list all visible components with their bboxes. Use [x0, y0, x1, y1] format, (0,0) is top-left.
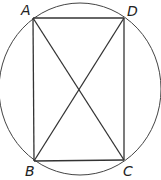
side-cb — [34, 160, 124, 161]
label-d: D — [127, 4, 138, 18]
diagram-canvas — [0, 0, 161, 180]
side-ba — [33, 18, 34, 161]
label-b: B — [25, 164, 35, 178]
circumcircle — [0, 3, 161, 175]
geometry-diagram: A D B C — [0, 0, 161, 180]
label-c: C — [123, 164, 133, 178]
label-a: A — [21, 3, 31, 17]
